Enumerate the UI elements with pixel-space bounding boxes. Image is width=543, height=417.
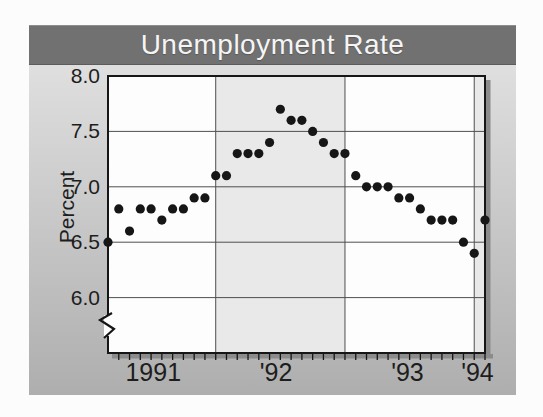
data-point bbox=[168, 204, 177, 213]
data-point bbox=[243, 149, 252, 158]
shaded-year-band bbox=[216, 76, 345, 353]
x-axis-label: 1991 bbox=[125, 358, 181, 386]
data-point bbox=[427, 215, 436, 224]
data-point bbox=[416, 204, 425, 213]
data-point bbox=[394, 193, 403, 202]
figure-page: Unemployment Rate Percent 8.07.57.06.56.… bbox=[0, 0, 543, 417]
y-tick-label: 6.0 bbox=[71, 286, 100, 309]
data-point bbox=[233, 149, 242, 158]
data-point bbox=[405, 193, 414, 202]
data-point bbox=[276, 105, 285, 114]
data-point bbox=[190, 193, 199, 202]
x-axis-label: '94 bbox=[461, 358, 494, 386]
data-point bbox=[265, 138, 274, 147]
data-point bbox=[125, 227, 134, 236]
data-point bbox=[157, 215, 166, 224]
data-point bbox=[297, 116, 306, 125]
data-point bbox=[459, 238, 468, 247]
data-point bbox=[179, 204, 188, 213]
y-tick-label: 7.5 bbox=[71, 119, 100, 142]
data-point bbox=[200, 193, 209, 202]
data-point bbox=[373, 182, 382, 191]
data-point bbox=[480, 215, 489, 224]
data-point bbox=[287, 116, 296, 125]
data-point bbox=[351, 171, 360, 180]
data-point bbox=[211, 171, 220, 180]
shaded-year-band bbox=[474, 76, 485, 353]
x-axis-label: '93 bbox=[391, 358, 424, 386]
data-point bbox=[114, 204, 123, 213]
data-point bbox=[448, 215, 457, 224]
data-point bbox=[437, 215, 446, 224]
data-point bbox=[319, 138, 328, 147]
data-point bbox=[362, 182, 371, 191]
data-point bbox=[308, 127, 317, 136]
data-point bbox=[136, 204, 145, 213]
scatter-plot-svg: 8.07.57.06.56.01991'92'93'94 bbox=[0, 0, 543, 417]
x-axis-label: '92 bbox=[260, 358, 293, 386]
data-point bbox=[383, 182, 392, 191]
data-point bbox=[254, 149, 263, 158]
y-tick-label: 6.5 bbox=[71, 230, 100, 253]
y-tick-label: 8.0 bbox=[71, 64, 100, 87]
data-point bbox=[103, 238, 112, 247]
data-point bbox=[340, 149, 349, 158]
data-point bbox=[330, 149, 339, 158]
data-point bbox=[146, 204, 155, 213]
data-point bbox=[470, 249, 479, 258]
y-tick-label: 7.0 bbox=[71, 175, 100, 198]
data-point bbox=[222, 171, 231, 180]
